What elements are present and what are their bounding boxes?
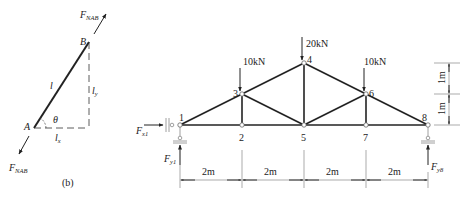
node-label-8: 8 — [422, 112, 427, 123]
reaction-fx1-label: Fx1 — [135, 125, 148, 137]
reactions — [144, 125, 428, 165]
node-6 — [364, 92, 368, 96]
height-label-1: 1m — [436, 71, 447, 84]
angle-arc — [40, 118, 46, 128]
point-b-label: B — [80, 36, 86, 47]
reaction-fy8-label: Fy8 — [430, 161, 444, 173]
lx-label: lx — [55, 132, 61, 144]
force-bottom-label: FNAB — [8, 162, 27, 174]
support-node-8 — [421, 127, 435, 143]
truss-diagram: FNAB B l ly θ A lx FNAB (b) 1 — [0, 0, 460, 199]
figure-caption: (b) — [62, 177, 74, 189]
load-label-4: 20kN — [306, 38, 328, 49]
span-label-4: 2m — [388, 166, 401, 177]
member-3-5 — [242, 94, 304, 125]
member-5-6 — [304, 94, 366, 125]
point-a-label: A — [23, 121, 31, 132]
length-label: l — [50, 80, 53, 91]
force-bottom-arrow — [19, 136, 29, 154]
node-label-5: 5 — [301, 132, 306, 143]
node-5 — [302, 123, 306, 127]
svg-text:FNAB: FNAB — [79, 9, 98, 21]
span-label-1: 2m — [202, 166, 215, 177]
member-ab — [34, 42, 89, 128]
node-label-3: 3 — [233, 88, 238, 99]
span-label-3: 2m — [326, 166, 339, 177]
node-label-7: 7 — [363, 132, 368, 143]
load-label-3: 10kN — [243, 56, 265, 67]
node-7 — [364, 123, 368, 127]
load-label-6: 10kN — [364, 56, 386, 67]
node-label-1: 1 — [179, 112, 184, 123]
member-ab-figure: FNAB B l ly θ A lx FNAB (b) — [8, 9, 106, 189]
ly-label: ly — [92, 85, 98, 97]
span-label-2: 2m — [264, 166, 277, 177]
node-2 — [240, 123, 244, 127]
reaction-fy1-label: Fy1 — [163, 153, 176, 165]
node-labels: 1 2 3 4 5 6 7 8 — [179, 54, 427, 143]
node-label-4: 4 — [307, 54, 312, 65]
truss — [180, 63, 428, 125]
node-3 — [240, 92, 244, 96]
angle-label: θ — [53, 114, 58, 125]
node-8 — [426, 123, 430, 127]
node-label-2: 2 — [239, 132, 244, 143]
height-label-2: 1m — [436, 102, 447, 115]
node-label-6: 6 — [369, 88, 374, 99]
node-1 — [178, 123, 182, 127]
node-4 — [302, 61, 306, 65]
